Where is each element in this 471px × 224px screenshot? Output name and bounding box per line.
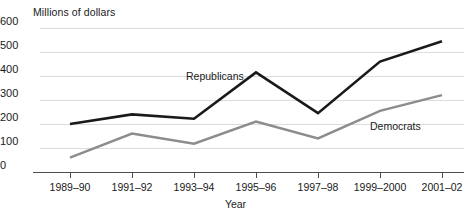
line-series-republicans: [70, 41, 442, 124]
series-lines: [0, 0, 471, 224]
series-label-democrats: Democrats: [370, 120, 421, 132]
line-chart: Millions of dollars 0100200300400500600 …: [0, 0, 471, 224]
series-label-republicans: Republicans: [186, 70, 244, 82]
